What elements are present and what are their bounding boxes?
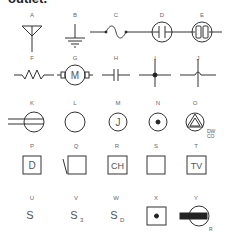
symbol-label: W (96, 195, 136, 201)
svg-text:3: 3 (80, 217, 84, 223)
symbol-label: B (55, 12, 95, 18)
svg-text:D: D (28, 160, 35, 171)
resistor-icon (12, 65, 52, 95)
symbol-label: G (55, 55, 95, 61)
symbol-j-wires-crossing: J (178, 55, 218, 99)
range-outlet-icon: R (176, 205, 216, 235)
symbol-q-box-slash: Q (56, 143, 96, 187)
lamp-gap-icon (142, 22, 182, 52)
symbol-t-box-tv: T TV (176, 143, 216, 187)
wires-crossing-icon (178, 65, 218, 95)
symbol-label: F (12, 55, 52, 61)
symbol-h-capacitor: H (96, 55, 136, 99)
symbol-x-push-button: X (136, 195, 176, 235)
symbol-label: P (12, 143, 52, 149)
three-way-switch-icon: S 3 (56, 205, 96, 235)
fuse-icon (96, 22, 136, 52)
junction-box-icon: J (98, 110, 138, 140)
symbol-label: X (136, 195, 176, 201)
svg-text:S: S (110, 209, 117, 221)
symbol-label: L (55, 100, 95, 106)
symbol-c-fuse: C (96, 12, 136, 56)
svg-text:CO: CO (207, 133, 215, 139)
symbol-label: Y (176, 195, 216, 201)
lamp-double-icon (182, 22, 222, 52)
symbol-b-ground: B (55, 12, 95, 56)
svg-text:S: S (70, 209, 77, 221)
svg-text:J: J (116, 117, 121, 128)
svg-text:D: D (120, 217, 125, 223)
heading: outlet. (8, 0, 47, 6)
box-slash-icon (56, 153, 96, 183)
symbol-label: Q (56, 143, 96, 149)
svg-text:M: M (71, 70, 79, 81)
symbol-label: U (12, 195, 52, 201)
svg-text:S: S (26, 209, 33, 221)
symbol-n-floor-outlet: N (138, 100, 178, 144)
box-d-icon: D (12, 153, 52, 183)
symbol-v-three-way-switch: V S 3 (56, 195, 96, 235)
symbol-label: T (176, 143, 216, 149)
box-ch-icon: CH (97, 153, 137, 183)
motor-icon: M (55, 65, 95, 95)
symbol-o-special-outlet: O DW CO (175, 100, 215, 144)
symbol-label: K (12, 100, 52, 106)
special-outlet-icon: DW CO (175, 110, 215, 140)
svg-text:R: R (209, 226, 213, 232)
symbol-a-antenna: A (12, 12, 52, 56)
symbol-i-wires-connected: I (135, 55, 175, 99)
symbol-k-duplex-outlet: K (12, 100, 52, 144)
symbol-label: E (182, 12, 222, 18)
symbol-d-lamp: D (142, 12, 182, 56)
symbol-label: M (98, 100, 138, 106)
symbol-r-box-ch: R CH (97, 143, 137, 187)
symbol-label: R (97, 143, 137, 149)
push-button-icon (136, 205, 176, 235)
symbol-label: S (136, 143, 176, 149)
duplex-outlet-icon (12, 110, 52, 140)
symbol-label: C (96, 12, 136, 18)
symbol-p-box-d: P D (12, 143, 52, 187)
symbol-m-junction-box: M J (98, 100, 138, 144)
symbol-e-lamp-double: E (182, 12, 222, 56)
switch-icon: S (12, 205, 52, 235)
symbol-u-switch: U S (12, 195, 52, 235)
antenna-icon (12, 22, 52, 52)
symbol-l-ceiling-outlet: L (55, 100, 95, 144)
wires-connected-icon (135, 65, 175, 95)
svg-text:TV: TV (191, 161, 203, 171)
symbol-label: V (56, 195, 96, 201)
ceiling-outlet-icon (55, 110, 95, 140)
symbol-label: D (142, 12, 182, 18)
svg-text:CH: CH (111, 161, 124, 171)
symbol-label: O (175, 100, 215, 106)
symbol-label: H (96, 55, 136, 61)
symbol-s-box-empty: S (136, 143, 176, 187)
symbol-label: N (138, 100, 178, 106)
symbol-y-range-outlet: Y R (176, 195, 216, 235)
floor-outlet-icon (138, 110, 178, 140)
symbol-g-motor: G M (55, 55, 95, 99)
symbol-f-resistor: F (12, 55, 52, 99)
door-switch-icon: S D (96, 205, 136, 235)
capacitor-icon (96, 65, 136, 95)
box-empty-icon (136, 153, 176, 183)
symbol-w-door-switch: W S D (96, 195, 136, 235)
symbol-label: A (12, 12, 52, 18)
box-tv-icon: TV (176, 153, 216, 183)
ground-icon (55, 22, 95, 52)
